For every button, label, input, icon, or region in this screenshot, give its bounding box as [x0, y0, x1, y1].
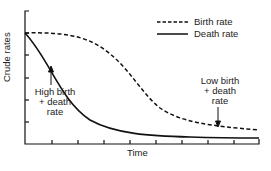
annotation-low-line3: rate	[194, 96, 246, 106]
y-axis-label: Crude rates	[2, 32, 12, 82]
legend-birth-label: Birth rate	[194, 17, 233, 27]
annotation-high: High birth + death rate	[27, 87, 83, 117]
annotation-low: Low birth + death rate	[194, 76, 246, 106]
x-axis-label: Time	[127, 148, 148, 158]
annotation-high-line3: rate	[27, 107, 83, 117]
legend-death-label: Death rate	[194, 29, 238, 39]
